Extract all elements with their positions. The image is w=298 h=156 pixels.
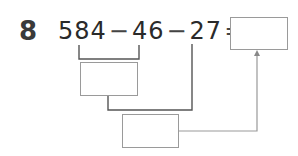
connector-line: [108, 44, 192, 110]
bracket-line: [79, 45, 139, 59]
connector-lines: [0, 0, 298, 156]
arrow-head-icon: [254, 50, 260, 56]
arrow-line: [179, 55, 257, 131]
